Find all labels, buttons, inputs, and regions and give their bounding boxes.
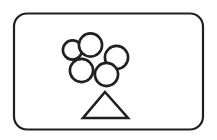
- balloon-top-icon: [79, 33, 102, 56]
- balloon-bottom-left-icon: [70, 59, 93, 82]
- pictogram-canvas: [0, 0, 217, 140]
- icon-card: Outlined drawing of five overlapping cir…: [0, 0, 217, 140]
- balloon-bottom-right-icon: [95, 63, 118, 86]
